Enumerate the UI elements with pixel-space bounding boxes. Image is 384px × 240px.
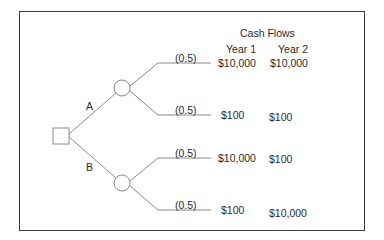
chance-node-a: [114, 80, 130, 96]
year1-value: $100: [221, 110, 244, 121]
probability-label: (0.5): [175, 200, 197, 211]
year-1-header: Year 1: [226, 44, 256, 55]
year2-value: $10,000: [269, 208, 307, 219]
probability-label: (0.5): [175, 148, 197, 159]
outcome-a2-line: [130, 91, 211, 115]
year-2-header: Year 2: [278, 44, 308, 55]
probability-label: (0.5): [175, 53, 197, 64]
year2-value: $100: [269, 154, 292, 165]
decision-node-square: [53, 128, 69, 144]
probability-label: (0.5): [175, 105, 197, 116]
decision-label-b: B: [86, 162, 93, 173]
year1-value: $10,000: [218, 58, 256, 69]
outcome-a1-line: [130, 63, 211, 86]
year2-value: $100: [269, 112, 292, 123]
outcome-b2-line: [130, 186, 211, 210]
year2-value: $10,000: [270, 58, 308, 69]
decision-label-a: A: [86, 101, 93, 112]
outcome-b1-line: [130, 158, 211, 181]
chance-node-b: [114, 175, 130, 191]
year1-value: $100: [221, 205, 244, 216]
year1-value: $10,000: [218, 153, 256, 164]
cash-flows-title: Cash Flows: [240, 28, 295, 39]
